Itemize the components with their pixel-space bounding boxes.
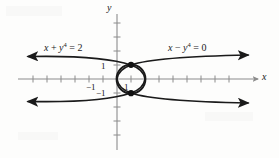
intersection-point-lower <box>128 90 134 96</box>
tick-label-x-neg1: −1 <box>86 83 96 92</box>
scan-artifact <box>6 6 62 16</box>
tick-label-y-1: 1 <box>101 62 106 71</box>
x-axis-label: x <box>262 72 266 82</box>
curve-label-right: x − y4 = 0 <box>168 42 206 53</box>
scan-artifact <box>18 132 58 140</box>
y-axis-label: y <box>107 3 111 13</box>
tick-label-y-neg1: −1 <box>96 89 106 98</box>
axis-group <box>18 14 258 150</box>
scan-artifact <box>205 112 253 121</box>
curve-label-left: x + y4 = 2 <box>44 42 82 53</box>
intersection-point-upper <box>128 62 134 68</box>
tick-label-x-1: 1 <box>124 83 129 92</box>
